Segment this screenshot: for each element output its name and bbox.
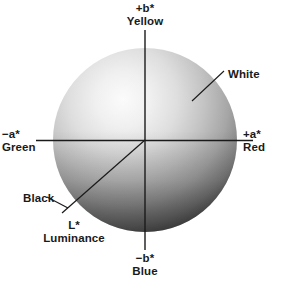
- axis-label-red-symbol: +a*: [243, 128, 283, 141]
- axis-label-green: −a* Green: [2, 128, 54, 154]
- axis-title-luminance-name: Luminance: [28, 232, 120, 245]
- axis-label-black: Black: [23, 192, 69, 205]
- axis-label-red: +a* Red: [243, 128, 283, 154]
- axis-label-blue: −b* Blue: [107, 252, 183, 278]
- axis-label-green-symbol: −a*: [2, 128, 54, 141]
- axis-label-red-name: Red: [243, 141, 283, 154]
- axis-label-yellow-symbol: +b*: [107, 2, 183, 15]
- axis-label-black-name: Black: [23, 192, 69, 205]
- axis-label-blue-name: Blue: [107, 265, 183, 278]
- axis-label-white: White: [228, 68, 282, 81]
- axis-label-green-name: Green: [2, 141, 54, 154]
- axis-label-yellow-name: Yellow: [107, 15, 183, 28]
- axis-title-luminance: L* Luminance: [28, 219, 120, 245]
- axis-label-blue-symbol: −b*: [107, 252, 183, 265]
- lab-color-space-figure: +b* Yellow −b* Blue −a* Green +a* Red Wh…: [0, 0, 283, 282]
- axis-label-yellow: +b* Yellow: [107, 2, 183, 28]
- axis-title-luminance-symbol: L*: [28, 219, 120, 232]
- axis-label-white-name: White: [228, 68, 282, 81]
